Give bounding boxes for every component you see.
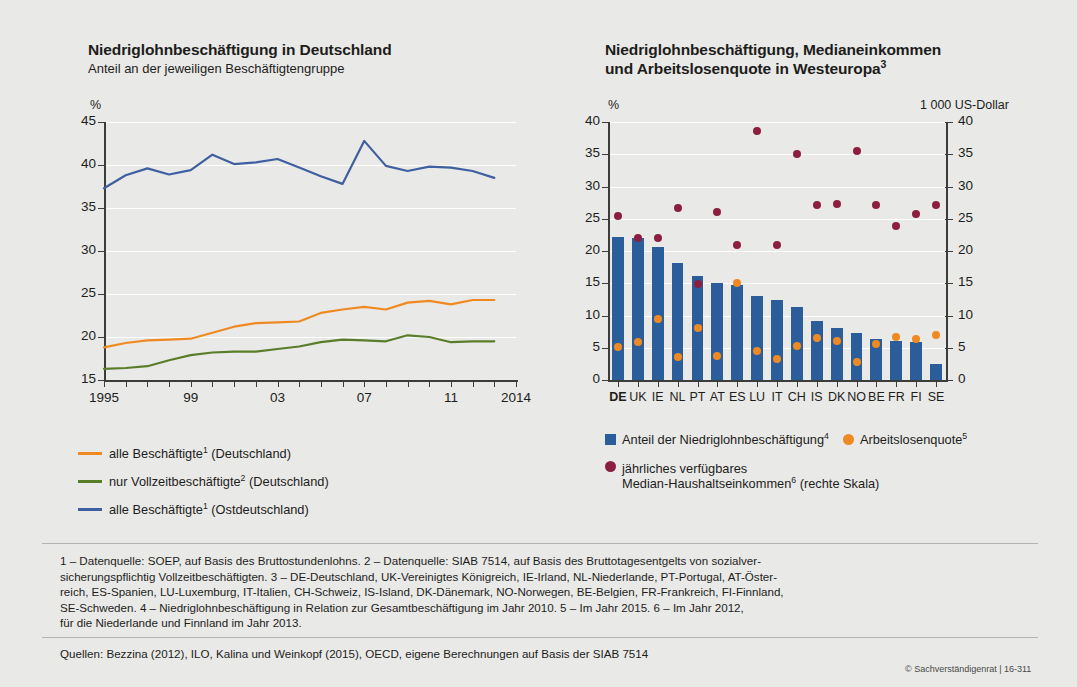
legend-line-swatch: [78, 508, 102, 511]
y-axis-label-right-35: 35: [958, 145, 994, 160]
right-chart-unit-left: %: [608, 98, 619, 112]
x-tick-LU: [757, 381, 758, 387]
x-tick-PT: [698, 381, 699, 387]
x-tick-1996: [126, 381, 127, 387]
bar-UK: [632, 238, 644, 381]
x-tick-2005: [321, 381, 322, 387]
footnote-line: sicherungspflichtig Vollzeitbeschäftigte…: [60, 569, 1060, 585]
y-tick-right-5: [945, 348, 953, 349]
y-axis-label-20: 20: [58, 328, 96, 343]
figure-page: Niedriglohnbeschäftigung in Deutschland …: [0, 0, 1077, 687]
income-dot-BE: [872, 201, 880, 209]
x-tick-1995: [104, 381, 105, 387]
legend-line-swatch: [78, 452, 102, 455]
left-legend-item-0: alle Beschäftigte1 (Deutschland): [78, 446, 291, 461]
x-tick-2010: [429, 381, 430, 387]
x-tick-2000: [212, 381, 213, 387]
x-tick-1998: [169, 381, 170, 387]
x-tick-UK: [638, 381, 639, 387]
unemployment-dot-NO: [853, 358, 861, 366]
y-axis-label-left-10: 10: [564, 307, 600, 322]
category-label-SE: SE: [923, 390, 949, 404]
footnote-line: 1 – Datenquelle: SOEP, auf Basis des Bru…: [60, 553, 1060, 569]
y-axis-label-45: 45: [58, 113, 96, 128]
bar-LU: [751, 296, 763, 381]
y-tick-left-10: [602, 316, 609, 317]
income-dot-DE: [614, 212, 622, 220]
income-dot-ES: [733, 241, 741, 249]
income-dot-IT: [773, 241, 781, 249]
x-axis-label-2007: 07: [334, 390, 394, 405]
income-dot-SE: [932, 201, 940, 209]
x-axis-label-2003: 03: [248, 390, 308, 405]
right-chart-plot: 00551010151520202525303035354040DEUKIENL…: [608, 122, 946, 380]
x-tick-1999: [191, 381, 192, 387]
y-tick-right-20: [945, 251, 953, 252]
legend-label: Anteil der Niedriglohnbeschäftigung4: [622, 432, 829, 447]
legend-dot-swatch: [605, 461, 616, 472]
x-axis-label-1999: 99: [161, 390, 221, 405]
x-tick-IT: [777, 381, 778, 387]
left-chart-title: Niedriglohnbeschäftigung in Deutschland: [88, 40, 548, 59]
y-axis-label-right-20: 20: [958, 242, 994, 257]
y-axis-label-right-30: 30: [958, 178, 994, 193]
y-axis-label-right-40: 40: [958, 113, 994, 128]
legend-square-swatch: [605, 434, 616, 445]
bar-IS: [811, 321, 823, 380]
x-tick-FR: [896, 381, 897, 387]
y-tick-left-0: [602, 380, 609, 381]
legend-label: nur Vollzeitbeschäftigte2 (Deutschland): [109, 474, 329, 489]
y-axis-label-left-5: 5: [564, 339, 600, 354]
y-tick-right-35: [945, 154, 953, 155]
right-legend-row-2: jährliches verfügbaresMedian-Haushaltsei…: [605, 461, 879, 491]
y-axis-label-40: 40: [58, 156, 96, 171]
y-axis-label-left-35: 35: [564, 145, 600, 160]
gridline-35: [608, 154, 946, 155]
x-tick-2001: [234, 381, 235, 387]
y-tick-left-40: [602, 122, 609, 123]
income-dot-IS: [813, 201, 821, 209]
left-legend-item-1: nur Vollzeitbeschäftigte2 (Deutschland): [78, 474, 329, 489]
x-tick-2003: [278, 381, 279, 387]
y-tick-right-25: [945, 219, 953, 220]
x-tick-2006: [343, 381, 344, 387]
y-axis-label-left-15: 15: [564, 274, 600, 289]
unemployment-dot-SE: [932, 331, 940, 339]
left-chart-plot: 152025303540451995990307112014: [104, 122, 516, 380]
y-axis-label-right-0: 0: [958, 371, 994, 386]
unemployment-dot-IE: [654, 315, 662, 323]
gridline-30: [608, 187, 946, 188]
x-tick-DK: [837, 381, 838, 387]
x-tick-2011: [451, 381, 452, 387]
x-tick-2007: [364, 381, 365, 387]
x-tick-NO: [857, 381, 858, 387]
x-tick-1997: [147, 381, 148, 387]
x-tick-2013: [494, 381, 495, 387]
y-tick-left-5: [602, 348, 609, 349]
x-tick-SE: [936, 381, 937, 387]
left-chart-x-axis: [104, 380, 518, 382]
left-chart-subtitle: Anteil an der jeweiligen Beschäftigtengr…: [88, 61, 548, 77]
x-tick-IE: [658, 381, 659, 387]
bar-ES: [731, 285, 743, 380]
left-legend-item-2: alle Beschäftigte1 (Ostdeutschland): [78, 502, 309, 517]
unemployment-dot-DE: [614, 343, 622, 351]
unemployment-dot-IS: [813, 334, 821, 342]
x-tick-2012: [473, 381, 474, 387]
y-tick-right-30: [945, 187, 953, 188]
income-dot-UK: [634, 234, 642, 242]
income-dot-FR: [892, 222, 900, 230]
unemployment-dot-NL: [674, 353, 682, 361]
y-tick-left-15: [602, 283, 609, 284]
bar-IT: [771, 300, 783, 380]
right-chart-unit-right: 1 000 US-Dollar: [920, 98, 1009, 112]
line-series-2: [104, 141, 494, 188]
legend-label: jährliches verfügbaresMedian-Haushaltsei…: [622, 461, 879, 491]
footer-divider-bottom: [42, 637, 1038, 638]
income-dot-LU: [753, 127, 761, 135]
income-dot-AT: [713, 208, 721, 216]
y-axis-label-right-15: 15: [958, 274, 994, 289]
income-dot-DK: [833, 200, 841, 208]
x-tick-BE: [876, 381, 877, 387]
unemployment-dot-CH: [793, 342, 801, 350]
